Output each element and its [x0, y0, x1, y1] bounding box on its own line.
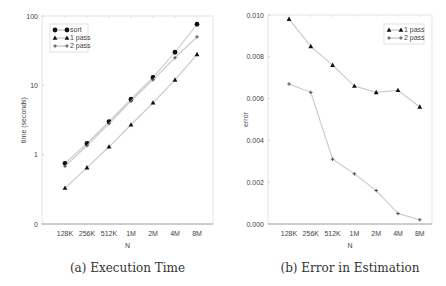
plot-frame: [268, 15, 432, 224]
x-axis-label: N: [347, 242, 352, 249]
chart-error-estimation: 0.0000.0020.0040.0060.0080.010128K256K51…: [242, 12, 432, 276]
1-pass-marker: [195, 52, 200, 56]
figure: 0110100128K256K512K1M2M4M8MNtime (second…: [0, 0, 446, 286]
x-tick-label: 8M: [415, 230, 425, 237]
y-tick-label: 10: [30, 82, 38, 89]
x-tick-label: 512K: [324, 230, 341, 237]
sort-marker: [173, 50, 178, 55]
y-tick-label: 0: [34, 221, 38, 228]
y-tick-label: 0.004: [246, 137, 264, 144]
x-tick-label: 256K: [303, 230, 320, 237]
y-tick-label: 0.000: [246, 221, 264, 228]
y-tick-label: 1: [34, 151, 38, 158]
legend-label: 2 pass: [70, 42, 91, 50]
2-pass-marker: [287, 82, 291, 86]
series-2-pass: [63, 35, 199, 168]
x-tick-label: 512K: [101, 230, 118, 237]
x-tick-label: 2M: [371, 230, 381, 237]
1-pass-marker: [287, 17, 292, 21]
legend-label: 2 pass: [404, 34, 425, 42]
series-1-pass: [63, 52, 200, 190]
legend-label: sort: [70, 26, 82, 33]
x-tick-label: 4M: [170, 230, 180, 237]
x-tick-label: 4M: [393, 230, 403, 237]
2-pass-marker: [418, 218, 422, 222]
y-tick-label: 0.006: [246, 95, 264, 102]
sort-marker: [195, 22, 200, 27]
x-tick-label: 256K: [79, 230, 96, 237]
y-tick-label: 0.008: [246, 53, 264, 60]
legend-label: 1 pass: [404, 26, 425, 34]
y-tick-label: 100: [26, 13, 38, 20]
x-tick-label: 128K: [281, 230, 298, 237]
chart-caption: (b) Error in Estimation: [281, 261, 420, 275]
chart-caption: (a) Execution Time: [70, 261, 185, 275]
legend-label: 1 pass: [70, 34, 91, 42]
legend-marker: [65, 28, 70, 33]
x-tick-label: 1M: [126, 230, 136, 237]
x-tick-label: 128K: [57, 230, 74, 237]
y-tick-label: 0.002: [246, 179, 264, 186]
y-axis-label: time (seconds): [20, 97, 28, 143]
legend: sort1 pass2 pass: [50, 24, 91, 52]
legend-marker: [53, 28, 58, 33]
y-tick-label: 0.010: [246, 12, 264, 19]
chart-execution-time: 0110100128K256K512K1M2M4M8MNtime (second…: [20, 13, 213, 276]
x-axis-label: N: [125, 242, 130, 249]
legend: 1 pass2 pass: [384, 24, 425, 44]
series-line: [65, 54, 197, 188]
x-tick-label: 8M: [192, 230, 202, 237]
series-2-pass: [287, 82, 421, 221]
2-pass-marker: [309, 91, 313, 95]
x-tick-label: 2M: [148, 230, 158, 237]
x-tick-label: 1M: [350, 230, 360, 237]
1-pass-marker: [396, 88, 401, 92]
y-axis-label: error: [242, 111, 249, 126]
series-line: [289, 84, 420, 220]
